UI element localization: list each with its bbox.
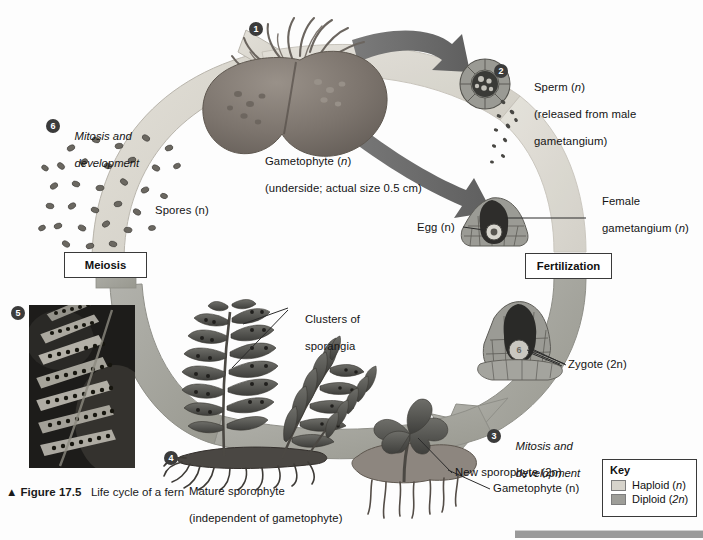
step-badge-1: 1: [249, 22, 263, 36]
new-sporophyte-label: New sporophyte (2n): [455, 466, 562, 479]
gametophyte-small-label: Gametophyte (n): [493, 482, 579, 495]
figure-number: Figure 17.5: [21, 486, 82, 498]
female-gametangium-line2: gametangium (n): [602, 222, 689, 234]
mature-sporophyte-line2: (independent of gametophyte): [189, 512, 343, 524]
egg-label: Egg (n): [417, 221, 455, 234]
step-badge-2: 2: [494, 64, 508, 78]
caption-triangle-icon: ▲: [6, 486, 17, 498]
step-badge-4: 4: [164, 451, 178, 465]
mature-sporophyte-line1: Mature sporophyte: [189, 485, 285, 497]
sperm-label-line1: Sperm (n): [534, 81, 585, 93]
meiosis-box: Meiosis: [64, 252, 147, 278]
clusters-line2: sporangia: [305, 340, 356, 352]
key-row-haploid: Haploid (n): [611, 479, 690, 491]
sperm-label-line2: (released from male: [534, 108, 636, 120]
step-badge-3: 3: [487, 429, 501, 443]
sperm-label: Sperm (n) (released from male gametangiu…: [521, 68, 636, 162]
female-gametangium-label: Female gametangium (n): [589, 182, 689, 249]
gametophyte-label-line1: Gametophyte (n): [265, 155, 351, 167]
fertilization-box: Fertilization: [525, 253, 612, 279]
figure-title: Life cycle of a fern: [91, 486, 184, 498]
sperm-label-line3: gametangium): [534, 135, 607, 147]
mature-sporophyte-label: Mature sporophyte (independent of gameto…: [176, 472, 343, 539]
diploid-label: Diploid (2n): [632, 493, 688, 505]
haploid-swatch: [611, 480, 626, 491]
step-6-line1: Mitosis and: [75, 130, 132, 142]
key-row-diploid: Diploid (2n): [611, 493, 690, 505]
step-badge-6: 6: [46, 119, 60, 133]
figure-caption: ▲ Figure 17.5 Life cycle of a fern: [6, 486, 184, 498]
figure-canvas: 1 2 3 4 5 6 6 Mitosis and development Mi…: [0, 0, 703, 540]
haploid-label: Haploid (n): [632, 479, 686, 491]
key-title: Key: [610, 464, 690, 476]
step-badge-zygote: 6: [512, 343, 526, 357]
key-legend: Key Haploid (n) Diploid (2n): [602, 459, 697, 517]
gametophyte-label: Gametophyte (n) (underside; actual size …: [252, 142, 422, 209]
zygote-label: Zygote (2n): [568, 358, 627, 371]
clusters-of-sporangia-label: Clusters of sporangia: [292, 300, 360, 367]
step-6-label: Mitosis and development: [62, 117, 139, 184]
step-badge-5: 5: [11, 306, 25, 320]
spores-label: Spores (n): [155, 204, 209, 217]
bottom-gray-bar: [515, 530, 703, 538]
female-gametangium-line1: Female: [602, 195, 640, 207]
gametophyte-label-line2: (underside; actual size 0.5 cm): [265, 182, 422, 194]
step-3-line1: Mitosis and: [516, 440, 573, 452]
clusters-line1: Clusters of: [305, 313, 360, 325]
step-6-line2: development: [75, 157, 140, 169]
diploid-swatch: [611, 494, 626, 505]
